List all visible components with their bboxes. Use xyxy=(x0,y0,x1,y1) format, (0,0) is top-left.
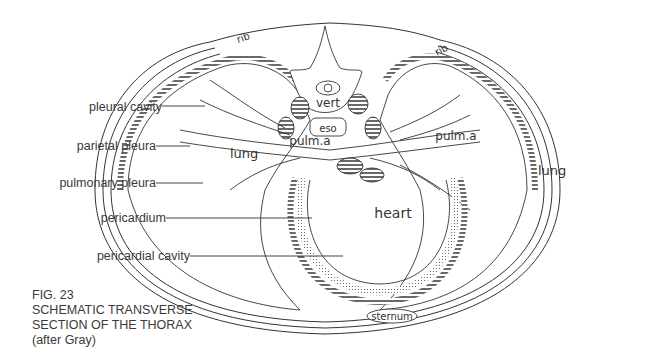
svg-text:sternum: sternum xyxy=(371,311,413,322)
figure-number: FIG. 23 xyxy=(32,288,193,303)
label-lung-left: lung xyxy=(230,146,258,161)
label-pleural-cavity: pleural cavity xyxy=(89,101,162,114)
sternum: sternum xyxy=(367,309,417,323)
label-pericardial-cavity: pericardial cavity xyxy=(97,250,190,263)
figure-title-line1: SCHEMATIC TRANSVERSE xyxy=(32,303,193,318)
figure-title-line2: SECTION OF THE THORAX xyxy=(32,318,193,333)
pericardium xyxy=(290,178,464,302)
label-pulm-a-right: pulm.a xyxy=(435,129,476,143)
figure-attribution: (after Gray) xyxy=(32,333,193,348)
label-heart: heart xyxy=(374,205,412,221)
label-pulm-a-left: pulm.a xyxy=(289,134,330,148)
figure-caption: FIG. 23 SCHEMATIC TRANSVERSE SECTION OF … xyxy=(32,288,193,348)
label-pulmonary-pleura: pulmonary pleura xyxy=(59,177,156,190)
label-vert: vert xyxy=(316,96,340,110)
label-pericardium: pericardium xyxy=(101,212,166,225)
label-eso: eso xyxy=(319,123,336,134)
label-parietal-pleura: parietal pleura xyxy=(77,140,156,153)
rib-left xyxy=(120,57,300,190)
label-lung-right: lung xyxy=(538,163,566,178)
